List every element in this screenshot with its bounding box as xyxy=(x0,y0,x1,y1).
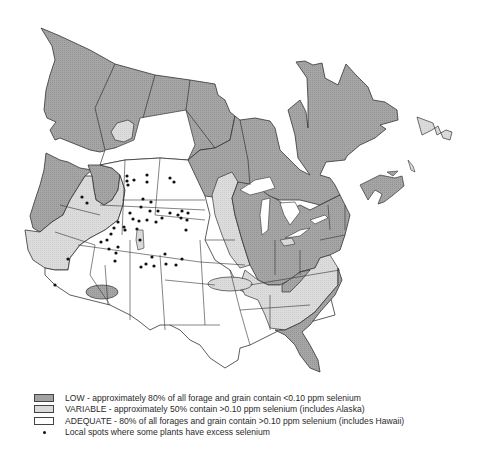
legend-item-adequate: ADEQUATE - 80% of all forages and grain … xyxy=(34,415,479,427)
region-newfoundland-variable xyxy=(417,117,452,140)
selenium-map xyxy=(0,0,481,380)
legend-label-low: LOW - approximately 80% of all forage an… xyxy=(65,393,361,403)
adequate-swatch xyxy=(34,417,54,425)
dot-icon xyxy=(34,428,54,436)
legend-item-low: LOW - approximately 80% of all forage an… xyxy=(34,392,479,404)
excess-dot xyxy=(138,238,141,241)
legend-label-excess: Local spots where some plants have exces… xyxy=(65,427,270,437)
island-cape-breton xyxy=(408,160,415,172)
legend-item-variable: VARIABLE - approximately 50% contain >0.… xyxy=(34,404,479,416)
region-maritimes-low xyxy=(360,175,404,204)
legend-label-variable: VARIABLE - approximately 50% contain >0.… xyxy=(65,404,365,414)
low-swatch xyxy=(34,394,54,402)
region-plains-variable-lens xyxy=(208,277,252,291)
legend-item-excess: Local spots where some plants have exces… xyxy=(34,427,479,439)
legend-label-adequate: ADEQUATE - 80% of all forages and grain … xyxy=(65,416,404,426)
region-arizona-low-lens xyxy=(86,285,118,299)
legend: LOW - approximately 80% of all forage an… xyxy=(34,392,479,438)
variable-swatch xyxy=(34,405,54,413)
island-pei xyxy=(387,171,398,176)
